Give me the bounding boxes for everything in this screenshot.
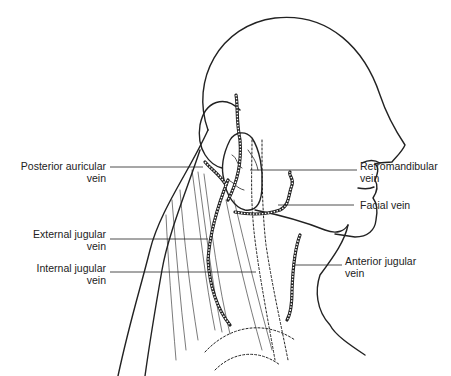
internal-jugular-vein	[252, 140, 275, 360]
label-posterior-auricular-vein: Posterior auricular vein	[0, 160, 106, 184]
facial-vein	[235, 172, 292, 214]
label-retromandibular-vein: Retromandibular vein	[360, 160, 438, 184]
anatomy-illustration	[0, 0, 451, 376]
neck-veins-diagram: Posterior auricular vein External jugula…	[0, 0, 451, 376]
label-external-jugular-vein: External jugular vein	[0, 228, 106, 252]
neck-front-outline	[317, 225, 365, 355]
external-jugular-vein	[208, 180, 230, 325]
label-internal-jugular-vein: Internal jugular vein	[0, 262, 106, 286]
label-anterior-jugular-vein: Anterior jugular vein	[345, 255, 416, 279]
anterior-jugular-vein	[287, 235, 300, 320]
label-facial-vein: Facial vein	[360, 199, 410, 211]
